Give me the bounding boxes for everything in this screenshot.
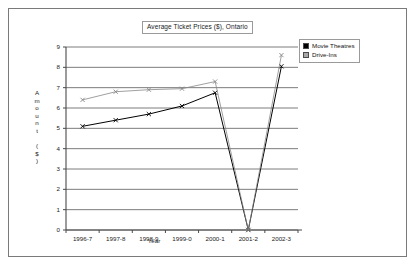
y-tick-label: 0	[44, 226, 60, 233]
series-line-movie-theatres	[83, 66, 282, 230]
y-tick-label: 6	[44, 104, 60, 111]
y-axis-title-char: u	[31, 112, 43, 120]
y-axis-title: Amount ($)	[31, 89, 43, 165]
y-axis-title-char: o	[31, 104, 43, 112]
y-tick-label: 2	[44, 185, 60, 192]
gridlines	[66, 47, 298, 230]
y-tick-label: 3	[44, 165, 60, 172]
plot-area	[9, 9, 408, 258]
y-axis-title-char: n	[31, 119, 43, 127]
y-axis-title-char: )	[31, 157, 43, 165]
y-axis-title-char: (	[31, 142, 43, 150]
y-axis-title-char: m	[31, 97, 43, 105]
chart-frame: Average Ticket Prices ($), Ontario Movie…	[8, 8, 407, 257]
x-tick-label: 2002-3	[259, 235, 303, 242]
data-series	[80, 53, 283, 232]
y-tick-label: 8	[44, 63, 60, 70]
y-axis-title-char: t	[31, 127, 43, 135]
y-tick-label: 1	[44, 206, 60, 213]
y-tick-label: 9	[44, 43, 60, 50]
series-line-drive-ins	[83, 55, 282, 230]
y-axis-title-char: A	[31, 89, 43, 97]
y-axis-title-char: $	[31, 150, 43, 158]
y-tick-label: 4	[44, 145, 60, 152]
y-tick-label: 7	[44, 84, 60, 91]
y-tick-label: 5	[44, 124, 60, 131]
y-axis-title-char	[31, 135, 43, 143]
